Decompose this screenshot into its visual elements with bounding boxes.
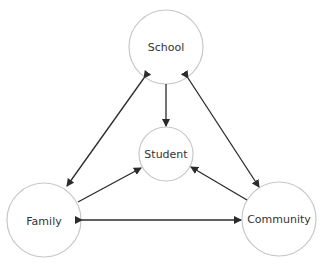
- school-label: School: [148, 41, 185, 54]
- edge-school-community: [188, 78, 259, 187]
- edge-school-family: [67, 78, 144, 186]
- family-label: Family: [26, 215, 61, 228]
- edge-family-student: [78, 168, 141, 202]
- student-label: Student: [144, 148, 187, 161]
- edge-community-student: [191, 167, 247, 200]
- community-label: Community: [247, 213, 311, 226]
